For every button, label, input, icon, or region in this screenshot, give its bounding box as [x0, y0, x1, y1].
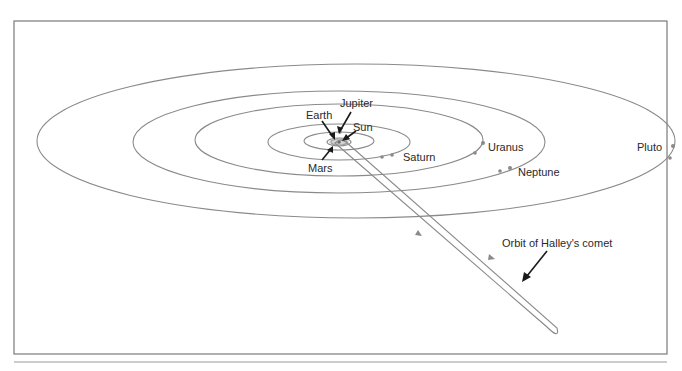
halley-direction-arrow-2: [488, 254, 495, 260]
label-arrows: [322, 112, 547, 282]
label-saturn: Saturn: [403, 151, 435, 163]
halley-arrow: [527, 251, 547, 276]
neptune-marker-2: [498, 169, 502, 173]
figure-frame: [14, 21, 667, 354]
pluto-marker-2: [668, 156, 672, 160]
uranus-marker-1: [481, 141, 485, 145]
pluto-marker-1: [671, 144, 675, 148]
saturn-marker-2: [390, 153, 394, 157]
label-sun: Sun: [353, 121, 373, 133]
label-pluto: Pluto: [637, 141, 662, 153]
label-halley-comet-orbit: Orbit of Halley's comet: [502, 237, 612, 249]
label-earth: Earth: [306, 109, 332, 121]
saturn-marker-1: [380, 155, 384, 159]
solar-system-diagram: Jupiter Earth Sun Mars Saturn Uranus Nep…: [0, 0, 682, 371]
uranus-marker-2: [473, 151, 477, 155]
label-mars: Mars: [308, 162, 333, 174]
neptune-marker-1: [508, 166, 512, 170]
label-neptune: Neptune: [518, 166, 560, 178]
halley-direction-arrow-1: [415, 230, 422, 236]
label-uranus: Uranus: [488, 141, 524, 153]
label-jupiter: Jupiter: [340, 97, 373, 109]
